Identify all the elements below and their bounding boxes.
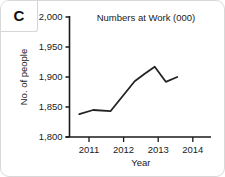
y-axis-title: No. of people [18, 49, 29, 106]
x-tick-label: 2014 [182, 144, 203, 155]
x-tick-label: 2013 [148, 144, 169, 155]
panel-label-text: C [14, 7, 25, 24]
y-tick-label: 1,900 [39, 71, 63, 82]
y-tick-label: 1,950 [39, 41, 63, 52]
x-tick-label: 2011 [79, 144, 99, 155]
y-tick-label: 1,800 [39, 131, 63, 142]
chart-title: Numbers at Work (000) [97, 12, 196, 23]
y-tick-label: 1,850 [39, 101, 63, 112]
panel-label-badge: C [1, 0, 38, 32]
data-series-line [79, 67, 177, 114]
chart-figure: C 1,8001,8501,9001,9502,0002011201220132… [0, 0, 225, 177]
x-axis-title: Year [131, 157, 150, 168]
x-tick-label: 2012 [113, 144, 134, 155]
y-tick-label: 2,000 [39, 11, 63, 22]
